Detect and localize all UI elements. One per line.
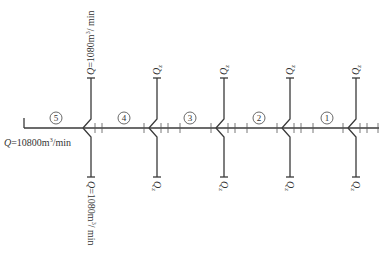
branch-bottom-label: Qz xyxy=(150,181,163,191)
branch-bottom-label: Qz xyxy=(217,181,230,191)
q-subscript: z xyxy=(150,187,158,191)
q-subscript: z xyxy=(349,187,357,191)
branch-bottom-line xyxy=(83,128,91,177)
ventilation-branch-diagram: Q=1080m3/ minQ=1080m3/ minQzQzQzQzQzQzQz… xyxy=(0,0,384,255)
branch-top-line xyxy=(83,78,91,128)
q-subscript: z xyxy=(283,187,291,191)
flow-unit: / min xyxy=(85,11,96,32)
branch-top-label: Qz xyxy=(350,65,363,75)
q-subscript: z xyxy=(355,65,363,69)
branch-bottom-label: Q=1080m3/ min xyxy=(86,181,97,246)
q-subscript: z xyxy=(289,65,297,69)
flow-value: =1080m xyxy=(85,34,96,68)
branch-top-line xyxy=(216,78,224,128)
branch-bottom-label: Qz xyxy=(283,181,296,191)
branch-top-line xyxy=(282,78,290,128)
branch-top-label: Q=1080m3/ min xyxy=(85,11,96,76)
branch-bottom-line xyxy=(216,128,224,177)
segment-number: 1 xyxy=(325,113,330,123)
branch-top-line xyxy=(348,78,356,128)
segment-label-2: 2 xyxy=(253,112,265,124)
branch-bottom-line xyxy=(282,128,290,177)
segment-label-5: 5 xyxy=(50,112,62,124)
segment-label-4: 4 xyxy=(118,112,130,124)
q-subscript: z xyxy=(217,187,225,191)
segment-number: 2 xyxy=(257,113,262,123)
main-flow-unit: /min xyxy=(53,137,71,148)
q-subscript: z xyxy=(223,65,231,69)
q-subscript: z xyxy=(156,65,164,69)
main-flow-label: Q=10800m3/min xyxy=(4,137,71,148)
segment-number: 3 xyxy=(188,113,193,123)
branch-top-line xyxy=(149,78,157,128)
diagram-canvas: Q=1080m3/ minQ=1080m3/ minQzQzQzQzQzQzQz… xyxy=(0,0,384,255)
segment-label-3: 3 xyxy=(184,112,196,124)
segment-number: 5 xyxy=(54,113,59,123)
segment-number: 4 xyxy=(122,113,127,123)
branch-bottom-line xyxy=(149,128,157,177)
branch-top-label: Qz xyxy=(218,65,231,75)
branch-bottom-line xyxy=(348,128,356,177)
flow-value: =1080m xyxy=(86,188,97,222)
main-flow-value: =10800m xyxy=(11,137,50,148)
flow-unit: / min xyxy=(86,225,97,246)
branch-top-label: Qz xyxy=(284,65,297,75)
branch-top-label: Qz xyxy=(151,65,164,75)
branch-bottom-label: Qz xyxy=(349,181,362,191)
segment-label-1: 1 xyxy=(321,112,333,124)
